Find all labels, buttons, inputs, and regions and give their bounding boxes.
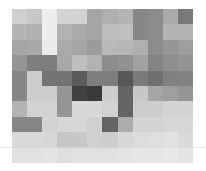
heatmap-cell [12,55,27,70]
heatmap-cell [12,132,27,147]
heatmap-cell [27,55,42,70]
heatmap-cell [12,117,27,132]
heatmap-cell [72,71,87,86]
heatmap-cell [178,101,193,116]
heatmap-cell [42,55,57,70]
heatmap-cell [57,148,72,163]
heatmap-cell [87,148,102,163]
heatmap-cell [87,71,102,86]
heatmap-cell [87,24,102,39]
heatmap-cell [163,40,178,55]
heatmap-cell [72,148,87,163]
heatmap-cell [57,132,72,147]
heatmap-cell [42,132,57,147]
heatmap-cell [87,117,102,132]
heatmap-cell [118,86,133,101]
heatmap-cell [148,86,163,101]
heatmap-cell [102,86,117,101]
heatmap-cell [102,101,117,116]
heatmap-cell [133,86,148,101]
heatmap-cell [118,148,133,163]
heatmap-cell [72,24,87,39]
heatmap-cell [102,55,117,70]
heatmap-cell [57,101,72,116]
heatmap-cell [72,117,87,132]
heatmap-cell [178,24,193,39]
heatmap-cell [87,9,102,24]
heatmap-cell [57,117,72,132]
heatmap-cell [42,24,57,39]
heatmap-cell [72,132,87,147]
heatmap-cell [178,148,193,163]
heatmap-cell [163,55,178,70]
heatmap-cell [118,55,133,70]
heatmap-cell [27,117,42,132]
heatmap-cell [87,101,102,116]
heatmap-cell [42,71,57,86]
heatmap-cell [148,55,163,70]
heatmap-cell [178,55,193,70]
heatmap-cell [57,40,72,55]
heatmap-cell [148,71,163,86]
heatmap-cell [163,132,178,147]
heatmap-cell [12,24,27,39]
heatmap-cell [72,9,87,24]
heatmap-cell [148,40,163,55]
heatmap-cell [42,86,57,101]
heatmap-cell [118,117,133,132]
heatmap-cell [12,101,27,116]
grayscale-heatmap-grid [12,9,193,163]
heatmap-cell [102,40,117,55]
heatmap-cell [12,71,27,86]
heatmap-cell [133,117,148,132]
heatmap-cell [87,132,102,147]
heatmap-cell [72,40,87,55]
heatmap-cell [163,86,178,101]
heatmap-cell [178,9,193,24]
heatmap-cell [27,132,42,147]
heatmap-cell [148,24,163,39]
heatmap-cell [163,9,178,24]
heatmap-cell [148,132,163,147]
heatmap-cell [118,40,133,55]
heatmap-cell [27,24,42,39]
heatmap-cell [163,117,178,132]
heatmap-cell [148,148,163,163]
heatmap-cell [102,148,117,163]
heatmap-cell [57,55,72,70]
heatmap-cell [148,101,163,116]
heatmap-cell [118,24,133,39]
heatmap-cell [42,101,57,116]
heatmap-cell [178,71,193,86]
heatmap-cell [148,117,163,132]
heatmap-cell [87,40,102,55]
heatmap-cell [102,132,117,147]
heatmap-cell [102,24,117,39]
heatmap-cell [12,40,27,55]
heatmap-cell [102,9,117,24]
heatmap-cell [27,40,42,55]
heatmap-cell [27,101,42,116]
heatmap-cell [57,24,72,39]
heatmap-cell [27,71,42,86]
heatmap-cell [72,101,87,116]
heatmap-cell [87,86,102,101]
heatmap-cell [57,71,72,86]
heatmap-cell [163,71,178,86]
heatmap-cell [42,9,57,24]
heatmap-cell [42,40,57,55]
heatmap-cell [133,132,148,147]
heatmap-cell [118,101,133,116]
heatmap-cell [178,40,193,55]
heatmap-cell [163,24,178,39]
heatmap-cell [12,86,27,101]
heatmap-cell [133,71,148,86]
heatmap-cell [133,101,148,116]
heatmap-cell [102,117,117,132]
heatmap-cell [118,9,133,24]
faint-horizontal-line [0,147,206,148]
heatmap-cell [118,132,133,147]
heatmap-cell [133,9,148,24]
heatmap-cell [133,148,148,163]
heatmap-cell [178,117,193,132]
